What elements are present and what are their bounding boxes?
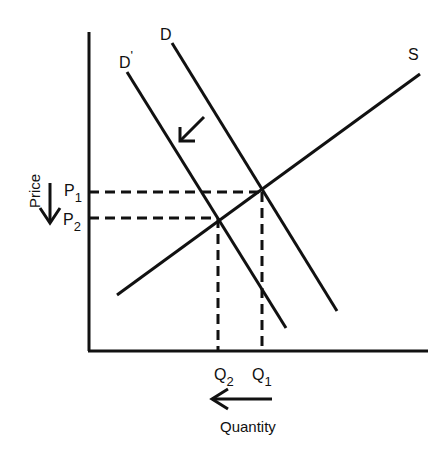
y-axis-label: Price	[26, 174, 43, 208]
demand-shift-arrow-icon	[180, 117, 204, 141]
quantity-left-arrow-icon	[212, 389, 272, 409]
q2-label: Q2	[214, 366, 234, 389]
p2-label: P2	[63, 211, 81, 234]
supply-curve	[117, 74, 420, 295]
demand-label: D	[160, 26, 172, 43]
x-axis-label: Quantity	[220, 418, 276, 435]
price-down-arrow-icon	[40, 183, 60, 223]
q1-label: Q1	[252, 366, 272, 389]
p1-label: P1	[64, 182, 82, 205]
demand-prime-label: D'	[119, 48, 133, 71]
supply-demand-diagram: S D D' P1 P2 Q2 Q1 Price Quantity	[0, 0, 445, 465]
supply-label: S	[408, 46, 419, 63]
demand-curve-d	[172, 43, 337, 311]
